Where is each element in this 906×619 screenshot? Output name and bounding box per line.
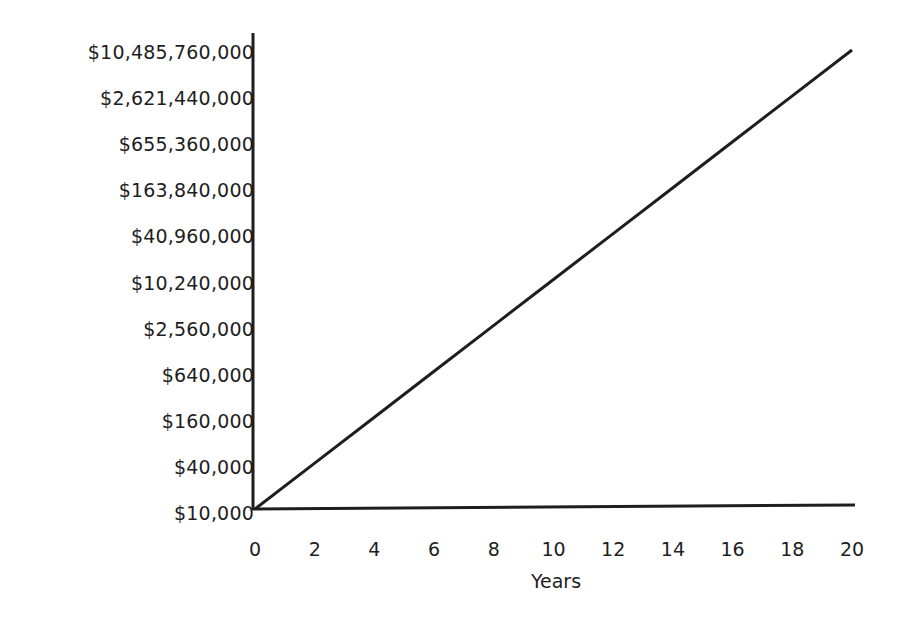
y-tick-label: $655,360,000 xyxy=(119,133,254,155)
x-tick-label: 4 xyxy=(368,538,380,560)
y-tick-label: $10,485,760,000 xyxy=(88,41,254,63)
y-tick-label: $2,560,000 xyxy=(143,318,254,340)
y-tick-label: $160,000 xyxy=(162,410,254,432)
x-axis-title: Years xyxy=(531,570,581,592)
x-tick-label: 20 xyxy=(840,538,864,560)
y-tick-label: $10,240,000 xyxy=(131,272,254,294)
line-chart: $10,000$40,000$160,000$640,000$2,560,000… xyxy=(0,0,906,619)
data-line xyxy=(255,50,852,509)
y-tick-label: $2,621,440,000 xyxy=(100,87,254,109)
x-tick-label: 10 xyxy=(541,538,565,560)
x-tick-label: 12 xyxy=(601,538,625,560)
y-tick-label: $40,960,000 xyxy=(131,225,254,247)
x-axis xyxy=(252,505,855,509)
x-tick-label: 8 xyxy=(488,538,500,560)
x-tick-label: 18 xyxy=(780,538,804,560)
y-tick-label: $163,840,000 xyxy=(119,179,254,201)
x-tick-label: 0 xyxy=(249,538,261,560)
y-tick-label: $40,000 xyxy=(174,456,254,478)
y-tick-label: $10,000 xyxy=(174,502,254,524)
x-tick-label: 16 xyxy=(721,538,745,560)
y-tick-label: $640,000 xyxy=(162,364,254,386)
x-tick-label: 2 xyxy=(309,538,321,560)
x-tick-label: 14 xyxy=(661,538,685,560)
x-tick-label: 6 xyxy=(428,538,440,560)
